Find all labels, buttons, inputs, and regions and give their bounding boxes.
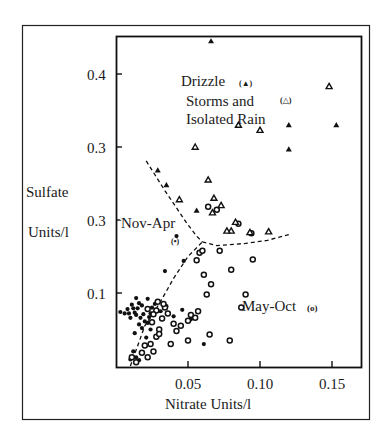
point-storms (266, 229, 272, 234)
point-nov-apr (123, 311, 127, 315)
drizzle-label: Drizzle (181, 73, 225, 89)
point-nov-apr (163, 269, 167, 273)
point-storms (224, 228, 230, 233)
point-may-oct (168, 342, 173, 347)
point-may-oct (186, 338, 191, 343)
point-may-oct (145, 307, 150, 312)
point-may-oct (150, 320, 155, 325)
point-may-oct (142, 343, 147, 348)
point-nov-apr (144, 335, 148, 339)
point-storms (211, 195, 217, 200)
point-may-oct (165, 311, 170, 316)
isolated-rain-label: Isolated Rain (186, 111, 266, 127)
point-nov-apr (172, 314, 176, 318)
point-storms (326, 83, 332, 88)
dividing-line-right (202, 235, 288, 246)
point-nov-apr (125, 307, 129, 311)
point-may-oct (194, 258, 199, 263)
point-may-oct (186, 318, 191, 323)
point-may-oct (209, 282, 214, 287)
point-drizzle (286, 122, 292, 127)
point-may-oct (243, 292, 248, 297)
point-may-oct (160, 316, 165, 321)
point-storms (218, 202, 224, 207)
point-may-oct (207, 332, 212, 337)
point-may-oct (227, 338, 232, 343)
point-may-oct (178, 323, 183, 328)
point-may-oct (134, 360, 139, 365)
point-may-oct (174, 328, 179, 333)
point-may-oct (151, 312, 156, 317)
point-may-oct (196, 309, 201, 314)
point-drizzle (194, 208, 200, 213)
point-may-oct (139, 350, 144, 355)
point-may-oct (201, 272, 206, 277)
point-storms (233, 219, 239, 224)
y-tick-label: 0.3 (87, 140, 106, 156)
point-nov-apr (128, 316, 132, 320)
point-may-oct (151, 349, 156, 354)
storms-marker-key: (△) (280, 96, 292, 105)
y-tick-label: 0.3 (87, 213, 106, 229)
point-may-oct (217, 248, 222, 253)
point-nov-apr (127, 311, 131, 315)
y-tick-label: 0.1 (87, 286, 106, 302)
point-may-oct (200, 248, 205, 253)
point-nov-apr (130, 303, 134, 307)
point-drizzle (333, 122, 339, 127)
point-may-oct (148, 342, 153, 347)
point-nov-apr (182, 259, 186, 263)
point-drizzle (155, 167, 161, 172)
point-storms (176, 197, 182, 202)
point-nov-apr (118, 310, 122, 314)
y-tick-label: 0.4 (87, 67, 106, 83)
point-nov-apr (134, 313, 138, 317)
x-tick-label: 0.05 (175, 376, 201, 392)
point-may-oct (250, 257, 255, 262)
point-storms (257, 127, 263, 132)
may-oct-label: May-Oct (242, 298, 297, 314)
y-axis-label-sulfate: Sulfate (26, 184, 69, 200)
point-may-oct (204, 292, 209, 297)
point-nov-apr (202, 342, 206, 346)
point-nov-apr (131, 349, 135, 353)
storms-label: Storms and (186, 93, 254, 109)
data-points (118, 38, 339, 365)
point-nov-apr (180, 308, 184, 312)
point-may-oct (206, 204, 211, 209)
point-storms (192, 144, 198, 149)
point-nov-apr (136, 306, 140, 310)
point-drizzle (208, 38, 214, 43)
x-axis-label: Nitrate Units/l (165, 396, 251, 412)
point-nov-apr (140, 326, 144, 330)
point-may-oct (145, 355, 150, 360)
point-nov-apr (141, 312, 145, 316)
point-may-oct (129, 355, 134, 360)
point-drizzle (163, 182, 169, 187)
point-may-oct (157, 331, 162, 336)
x-tick-label: 0.15 (319, 376, 345, 392)
x-axis-ticks: 0.050.100.15 (175, 361, 345, 392)
nov-apr-label: Nov-Apr (121, 215, 175, 231)
point-nov-apr (148, 327, 152, 331)
point-nov-apr (138, 316, 142, 320)
y-axis-label-units: Units/l (28, 224, 69, 240)
nov-apr-marker-key: (•) (171, 237, 179, 246)
point-nov-apr (137, 322, 141, 326)
point-may-oct (229, 267, 234, 272)
point-nov-apr (133, 331, 137, 335)
x-tick-label: 0.10 (247, 376, 273, 392)
point-may-oct (155, 299, 160, 304)
point-nov-apr (140, 303, 144, 307)
drizzle-marker-key: (▲) (239, 79, 253, 88)
point-storms (205, 177, 211, 182)
point-nov-apr (131, 306, 135, 310)
scatter-chart: 0.10.30.30.4 0.050.100.15 Sulfate Units/… (0, 0, 385, 437)
may-oct-marker-key: (o) (307, 303, 318, 313)
point-may-oct (161, 301, 166, 306)
point-may-oct (193, 315, 198, 320)
point-may-oct (171, 321, 176, 326)
point-nov-apr (134, 296, 138, 300)
point-nov-apr (146, 297, 150, 301)
point-drizzle (286, 146, 292, 151)
